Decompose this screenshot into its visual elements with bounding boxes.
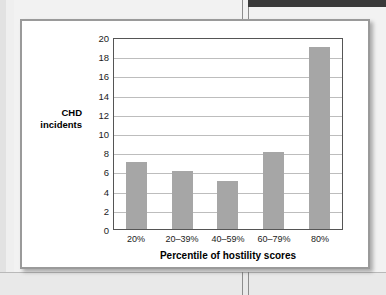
y-axis-tick: 18	[87, 53, 109, 63]
y-axis-title: CHD incidents	[24, 107, 82, 131]
y-axis-tick: 8	[87, 149, 109, 159]
bar	[217, 181, 238, 229]
x-axis-tick: 40–59%	[205, 234, 251, 244]
bar	[309, 47, 330, 229]
bar	[263, 152, 284, 229]
y-axis-tick: 16	[87, 72, 109, 82]
x-axis-tick: 60–79%	[251, 234, 297, 244]
y-axis-tick: 6	[87, 168, 109, 178]
y-axis-tick: 4	[87, 188, 109, 198]
plot-area	[113, 38, 343, 230]
bar	[126, 162, 147, 229]
y-axis-tick: 14	[87, 92, 109, 102]
y-axis-tick: 12	[87, 111, 109, 121]
y-axis-tick: 2	[87, 207, 109, 217]
y-axis-tick: 20	[87, 34, 109, 44]
x-axis-tick-labels: 20%20–39%40–59%60–79%80%	[113, 234, 343, 244]
x-axis-tick: 20%	[113, 234, 159, 244]
x-axis-tick: 20–39%	[159, 234, 205, 244]
page-top-strip	[248, 0, 386, 7]
bars-group	[114, 39, 342, 229]
x-axis-tick: 80%	[297, 234, 343, 244]
y-axis-tick: 10	[87, 130, 109, 140]
x-axis-title: Percentile of hostility scores	[113, 250, 343, 261]
bar-chart: CHD incidents 20181614121086420 20%20–39…	[22, 21, 368, 267]
y-axis-title-line2: incidents	[24, 119, 82, 131]
y-axis-title-line1: CHD	[24, 107, 82, 119]
bar	[172, 171, 193, 229]
figure-card: CHD incidents 20181614121086420 20%20–39…	[20, 19, 370, 269]
gutter-line-bottom-right	[248, 272, 249, 295]
y-axis-tick: 0	[87, 226, 109, 236]
y-axis-tick-labels: 20181614121086420	[83, 38, 109, 230]
gutter-line-bottom-left	[242, 272, 243, 295]
page-bottom-band	[0, 273, 386, 295]
